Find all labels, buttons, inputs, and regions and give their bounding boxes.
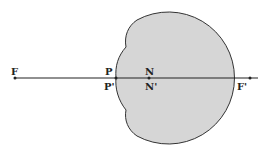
- point-F-prime: [249, 77, 252, 80]
- eye-diagram: F P P' N N' F': [0, 0, 269, 153]
- label-F: F: [11, 66, 18, 77]
- label-N-prime: N': [145, 81, 157, 92]
- label-P: P: [105, 66, 113, 77]
- label-F-prime: F': [237, 81, 247, 92]
- label-P-prime: P': [104, 81, 115, 92]
- label-N: N: [145, 66, 154, 77]
- point-P: [115, 77, 118, 80]
